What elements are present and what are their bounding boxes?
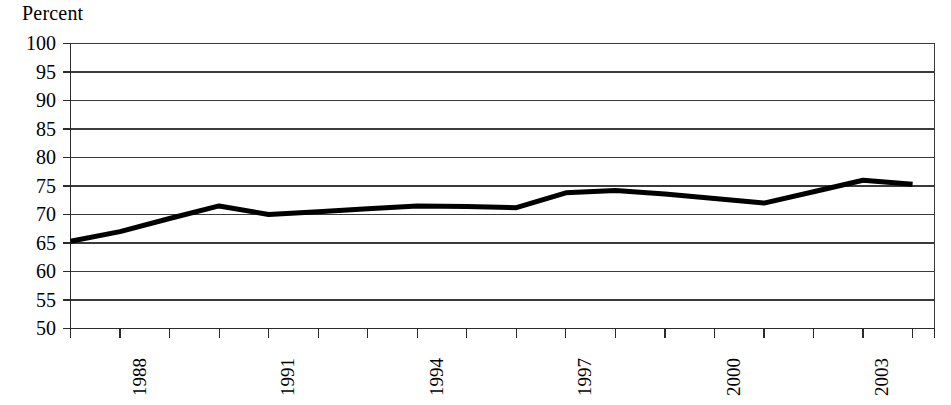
x-tick-label-1997: 1997 xyxy=(575,358,594,396)
y-tick-label-50: 50 xyxy=(4,318,56,338)
y-tick-label-65: 65 xyxy=(4,233,56,253)
y-tick-label-75: 75 xyxy=(4,176,56,196)
y-tick-label-90: 90 xyxy=(4,90,56,110)
data-line-percent xyxy=(71,180,913,241)
gridlines xyxy=(70,44,935,301)
y-tick-label-70: 70 xyxy=(4,204,56,224)
x-tick-label-1991: 1991 xyxy=(278,358,297,396)
x-tick-label-1994: 1994 xyxy=(427,358,446,396)
y-tick-label-80: 80 xyxy=(4,147,56,167)
y-tick-label-60: 60 xyxy=(4,261,56,281)
x-tick-label-1988: 1988 xyxy=(130,358,149,396)
plot-area xyxy=(0,0,951,405)
x-tick-label-2000: 2000 xyxy=(724,358,743,396)
y-tick-label-95: 95 xyxy=(4,62,56,82)
y-tick-label-85: 85 xyxy=(4,119,56,139)
chart-container: Percent xyxy=(0,0,951,405)
x-axis-ticks xyxy=(71,329,935,339)
x-tick-label-2003: 2003 xyxy=(872,358,891,396)
y-tick-label-100: 100 xyxy=(4,33,56,53)
y-tick-label-55: 55 xyxy=(4,290,56,310)
